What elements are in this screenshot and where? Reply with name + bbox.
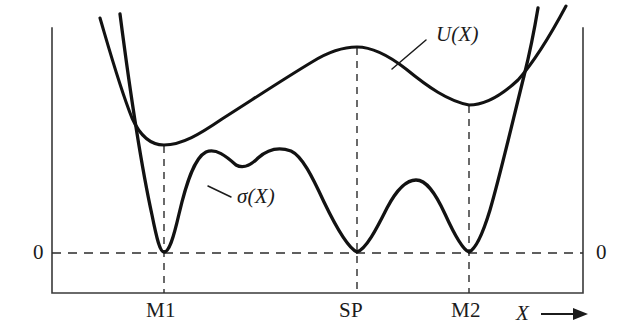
potential-energy-curve	[100, 6, 566, 145]
x-axis-arrow-head	[573, 308, 588, 320]
zero-label-left: 0	[33, 242, 44, 263]
curve-label-sigma: σ(X)	[237, 186, 275, 207]
tick-label-sp: SP	[339, 300, 363, 321]
leader-line-sigma	[208, 186, 231, 197]
tick-label-m2: M2	[451, 300, 481, 321]
figure-canvas	[0, 0, 639, 333]
zero-label-right: 0	[596, 242, 607, 263]
x-axis-label: X	[516, 303, 529, 324]
leader-line-potential	[392, 40, 426, 69]
tick-label-m1: M1	[146, 300, 176, 321]
figure-container: U(X) σ(X) 0 0 M1 SP M2 X	[0, 0, 639, 333]
curve-label-potential: U(X)	[436, 24, 479, 45]
